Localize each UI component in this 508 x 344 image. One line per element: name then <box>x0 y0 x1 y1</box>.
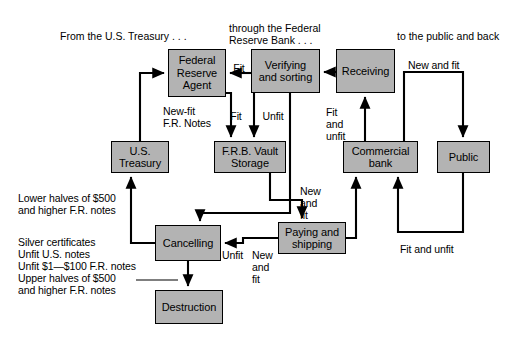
node-commercial-bank[interactable]: Commercial bank <box>343 141 418 173</box>
edge-label-fit-top: Fit <box>229 62 249 74</box>
edge-vault-to-paying <box>270 173 302 218</box>
heading-from-us-treasury: From the U.S. Treasury . . . <box>60 30 187 42</box>
node-us-treasury-label: U.S. Treasury <box>119 145 161 170</box>
edge-label-new-fit-fr-notes: New-fit F.R. Notes <box>163 105 233 129</box>
edge-paying-to-cancelling <box>225 238 278 243</box>
edge-paying-to-commercial <box>346 177 356 238</box>
node-public-label: Public <box>449 151 478 164</box>
edge-label-destruction-sources: Silver certificates Unfit U.S. notes Unf… <box>18 236 173 296</box>
edge-label-lower-halves: Lower halves of $500 and higher F.R. not… <box>18 192 163 216</box>
node-frb-vault-storage-label: F.R.B. Vault Storage <box>222 145 278 170</box>
heading-to-the-public-and-back: to the public and back <box>397 30 499 42</box>
node-paying-and-shipping[interactable]: Paying and shipping <box>278 222 346 254</box>
edge-label-new-and-fit-cancelling: New and fit <box>252 249 280 285</box>
edge-label-fit-and-unfit-public: Fit and unfit <box>400 243 485 255</box>
node-verifying-and-sorting[interactable]: Verifying and sorting <box>251 49 320 93</box>
node-destruction-label: Destruction <box>162 301 217 314</box>
edge-label-new-and-fit-public: New and fit <box>408 59 483 71</box>
node-commercial-bank-label: Commercial bank <box>352 145 410 170</box>
node-verifying-and-sorting-label: Verifying and sorting <box>259 59 312 84</box>
edge-label-unfit-cancelling: Unfit <box>222 249 252 261</box>
node-us-treasury[interactable]: U.S. Treasury <box>111 141 169 173</box>
edge-public-to-commercial <box>398 173 463 232</box>
edge-label-fit-and-unfit-receiving: Fit and unfit <box>326 106 358 142</box>
edge-treasury-to-agent <box>140 73 164 141</box>
node-receiving-label: Receiving <box>342 65 389 78</box>
node-paying-and-shipping-label: Paying and shipping <box>285 226 339 251</box>
node-receiving[interactable]: Receiving <box>336 49 395 93</box>
node-federal-reserve-agent-label: Federal Reserve Agent <box>177 54 217 92</box>
node-federal-reserve-agent[interactable]: Federal Reserve Agent <box>168 49 226 97</box>
node-frb-vault-storage[interactable]: F.R.B. Vault Storage <box>214 141 286 173</box>
node-public[interactable]: Public <box>437 141 490 173</box>
flowchart-diagram: From the U.S. Treasury . . . through the… <box>0 0 508 344</box>
edge-label-unfit: Unfit <box>258 110 288 122</box>
edge-label-fit: Fit <box>227 110 245 122</box>
edge-commercial-to-public <box>404 72 463 141</box>
heading-through-the-federal-reserve-bank: through the Federal Reserve Bank . . . <box>229 22 321 46</box>
edge-label-new-and-fit-commercial: New and fit <box>300 185 330 221</box>
